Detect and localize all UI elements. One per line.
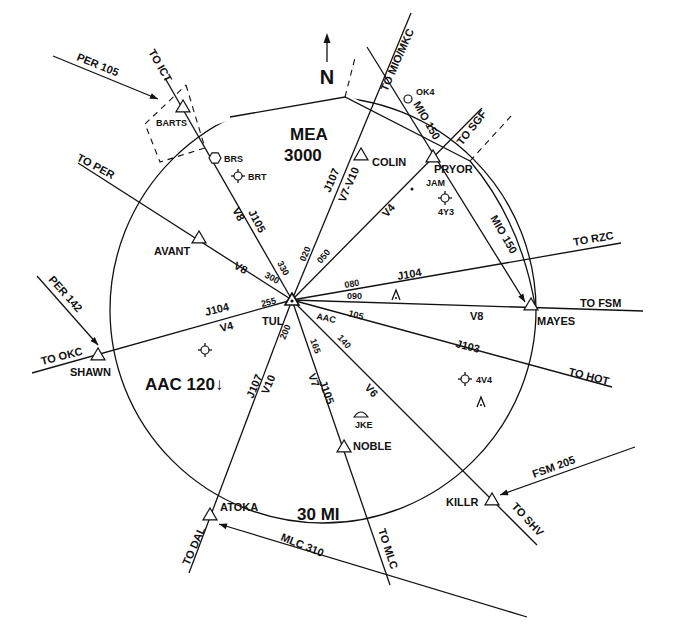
fix-triangle-icon bbox=[203, 508, 217, 520]
airway-label-v8: V8 bbox=[230, 205, 247, 223]
airport-icon bbox=[404, 95, 412, 103]
airway-label-j105: J105 bbox=[246, 207, 268, 234]
airport-icon bbox=[441, 194, 449, 202]
arrowhead-icon bbox=[149, 93, 158, 99]
arrow-mlc-310 bbox=[219, 524, 527, 617]
radial-label-090: 090 bbox=[347, 291, 362, 301]
fix-label-atoka: ATOKA bbox=[220, 501, 258, 513]
fix-label-shawn: SHAWN bbox=[70, 366, 111, 378]
seaplane-base-icon bbox=[354, 412, 368, 417]
airway-label-v4: V4 bbox=[379, 201, 397, 220]
fix-label-avant: AVANT bbox=[154, 245, 191, 257]
route-label-to-okc: TO OKC bbox=[40, 345, 84, 367]
fixes: BARTSAVANTSHAWNATOKANOBLEKILLRMAYESPRYOR… bbox=[70, 100, 575, 520]
bearing-arrows: PER 105PER 142MLC 310FSM 205MIO 150MIO 1… bbox=[37, 47, 635, 617]
route-label-to-sgf: TO SGF bbox=[454, 108, 489, 148]
vor-label-tul: TUL bbox=[262, 315, 284, 327]
airport-label-brt: BRT bbox=[248, 172, 267, 182]
airport-label-brs: BRS bbox=[224, 154, 243, 164]
route-label-to-ict: TO ICT bbox=[146, 47, 174, 84]
route-label-to-per: TO PER bbox=[75, 151, 117, 181]
fix-label-mayes: MAYES bbox=[537, 315, 575, 327]
airport-icon bbox=[461, 375, 469, 383]
airway-label-v6: V6 bbox=[363, 381, 381, 399]
north-arrow-head-icon bbox=[324, 33, 331, 43]
radial-label-255: 255 bbox=[260, 296, 277, 309]
fix-label-colin: COLIN bbox=[372, 156, 406, 168]
airport-label-jke: JKE bbox=[355, 420, 373, 430]
fix-triangle-icon bbox=[337, 440, 351, 452]
airway-label-v4: V4 bbox=[219, 319, 236, 334]
airport-label-4v4: 4V4 bbox=[476, 375, 492, 385]
route-label-to-shv: TO SHV bbox=[510, 500, 547, 538]
airport-icon bbox=[234, 172, 242, 180]
ring-distance-label: 30 MI bbox=[297, 505, 340, 524]
airport-label-ok4: OK4 bbox=[416, 87, 435, 97]
labels: J105V8V8J107V7-V10V4J104V8J103V6J105V7J1… bbox=[204, 165, 484, 405]
fix-triangle-icon bbox=[91, 348, 105, 360]
radial-label-020: 020 bbox=[298, 245, 313, 263]
vor-area-chart: TO ICTTO PERTO OKCTO DALTO MLCTO SHVTO H… bbox=[0, 0, 675, 633]
mea-altitude: 3000 bbox=[284, 146, 322, 165]
fix-label-barts: BARTS bbox=[156, 118, 187, 128]
airway-label-j104: J104 bbox=[396, 266, 423, 282]
airway-label-v8: V8 bbox=[232, 259, 250, 276]
arrowhead-icon bbox=[219, 523, 228, 529]
vor-label-aac: AAC bbox=[316, 311, 338, 325]
route-label-to-fsm: TO FSM bbox=[580, 297, 621, 309]
arrowhead-icon bbox=[518, 294, 525, 302]
route-label-to-mlc: TO MLC bbox=[376, 527, 400, 571]
route-label-to-hot: TO HOT bbox=[568, 365, 611, 387]
route-to-okc bbox=[32, 300, 292, 373]
mea-label: MEA bbox=[290, 125, 328, 144]
mea-boundary-dash-north bbox=[345, 58, 355, 97]
aac-area-label: AAC 120↓ bbox=[145, 375, 223, 394]
route-to-rzc bbox=[292, 243, 621, 300]
private-airport-icon bbox=[411, 188, 414, 191]
north-arrow: N bbox=[320, 33, 334, 88]
vor-hexagon-icon bbox=[209, 153, 221, 163]
airport-label-jam: JAM bbox=[426, 178, 445, 188]
fix-label-pryor: PRYOR bbox=[434, 163, 473, 175]
airway-label-j104: J104 bbox=[204, 300, 232, 318]
fix-label-noble: NOBLE bbox=[353, 440, 392, 452]
airway-label-v8: V8 bbox=[470, 310, 483, 322]
radial-label-140: 140 bbox=[336, 333, 353, 351]
radial-label-105: 105 bbox=[348, 308, 365, 321]
fix-triangle-icon bbox=[354, 148, 368, 160]
airports: BRSBRTOK4JAM4Y34V4JKE bbox=[198, 87, 492, 430]
fix-label-killr: KILLR bbox=[446, 496, 478, 508]
airport-icon bbox=[201, 346, 209, 354]
north-label: N bbox=[320, 66, 334, 88]
airway-label-j103: J103 bbox=[455, 337, 482, 355]
airport-label-4y3: 4Y3 bbox=[438, 207, 454, 217]
arrowhead-icon bbox=[500, 489, 509, 495]
route-label-to-mio-mkc: TO MIO/MKC bbox=[378, 27, 416, 93]
